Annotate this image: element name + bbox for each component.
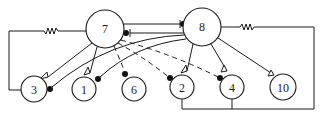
neuron-7: 7 <box>86 10 124 48</box>
neural-circuit-diagram: 7 8 3 1 6 2 4 10 <box>0 0 323 117</box>
synapse-8-to-2 <box>181 44 193 73</box>
neuron-3: 3 <box>21 76 47 102</box>
inhibitory-synapse-icon <box>47 86 53 92</box>
neuron-label: 6 <box>131 83 137 97</box>
neuron-label: 1 <box>81 83 87 97</box>
neuron-label: 10 <box>277 81 289 95</box>
inhibitory-synapse-icon <box>95 76 101 82</box>
excitatory-synapse-icon <box>268 70 274 76</box>
excitatory-synapse-icon <box>221 65 227 72</box>
neuron-10: 10 <box>270 74 296 100</box>
neuron-1: 1 <box>72 77 96 101</box>
neuron-label: 3 <box>31 83 37 97</box>
neuron-6: 6 <box>122 77 146 101</box>
neuron-label: 8 <box>199 20 205 34</box>
inhibitory-synapse-icon <box>122 71 128 77</box>
resistor-icon <box>40 28 62 34</box>
synapse-7-to-8 <box>123 20 186 28</box>
neuron-label: 2 <box>179 81 185 95</box>
coupling-7-3 <box>9 28 86 90</box>
neuron-4: 4 <box>220 75 244 99</box>
synapse-8-to-4 <box>211 44 227 72</box>
neuron-2: 2 <box>170 75 194 99</box>
resistor-icon <box>237 24 258 30</box>
neuron-label: 7 <box>102 22 108 36</box>
neuron-label: 4 <box>229 81 235 95</box>
synapse-7-to-4 <box>121 40 223 81</box>
excitatory-synapse-icon <box>181 65 187 73</box>
neuron-8: 8 <box>183 8 221 46</box>
excitatory-synapse-icon <box>84 67 90 75</box>
